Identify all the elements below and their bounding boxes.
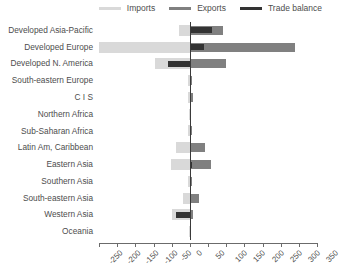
- bar-group: [99, 72, 317, 89]
- category-label: Latin Am, Caribbean: [18, 143, 93, 151]
- bar-exports: [190, 43, 295, 52]
- x-axis-tick-label: -100: [162, 249, 179, 266]
- category-label: South-eastern Europe: [12, 76, 93, 84]
- x-axis-tick: [299, 243, 300, 247]
- bar-exports: [190, 59, 226, 68]
- x-axis-tick: [244, 243, 245, 247]
- bar-imports: [176, 142, 190, 153]
- x-axis-tick-label: -50: [179, 249, 193, 263]
- bar-group: [99, 223, 317, 240]
- x-axis-tick: [208, 243, 209, 247]
- category-label: Eastern Asia: [46, 160, 93, 168]
- category-label: C I S: [75, 93, 93, 101]
- bar-trade-balance: [176, 212, 190, 218]
- x-axis-tick-label: 0: [195, 249, 204, 258]
- bar-trade-balance: [190, 27, 213, 33]
- x-axis-tick-label: -200: [126, 249, 143, 266]
- category-label: Western Asia: [44, 210, 93, 218]
- bar-imports: [179, 25, 190, 36]
- bar-group: [99, 22, 317, 39]
- x-axis-tick: [226, 243, 227, 247]
- x-axis-tick-label: 250: [289, 249, 304, 264]
- legend-trade-balance: Trade balance: [240, 4, 322, 13]
- x-axis-tick: [317, 243, 318, 247]
- legend-imports: Imports: [99, 4, 155, 13]
- category-label: Oceania: [62, 227, 93, 235]
- zero-baseline: [190, 22, 191, 240]
- x-axis-tick-label: 150: [252, 249, 267, 264]
- bar-group: [99, 190, 317, 207]
- chart-legend: ImportsExportsTrade balance: [0, 0, 326, 16]
- x-axis-tick-label: 100: [234, 249, 249, 264]
- x-axis-tick-label: 350: [325, 249, 340, 264]
- legend-exports-label: Exports: [197, 4, 226, 13]
- category-label: Sub-Saharan Africa: [21, 127, 93, 135]
- category-label: Developed Asia-Pacific: [8, 26, 93, 34]
- bar-exports: [190, 143, 205, 152]
- legend-trade-balance-swatch-icon: [240, 7, 262, 10]
- category-label: Northern Africa: [38, 110, 93, 118]
- bar-group: [99, 56, 317, 73]
- legend-exports: Exports: [169, 4, 226, 13]
- category-label: Southern Asia: [41, 177, 93, 185]
- x-axis-tick: [263, 243, 264, 247]
- category-label: South-eastern Asia: [23, 194, 93, 202]
- bar-group: [99, 206, 317, 223]
- bar-group: [99, 123, 317, 140]
- bar-exports: [190, 160, 211, 169]
- bar-group: [99, 139, 317, 156]
- bar-imports: [99, 42, 190, 53]
- category-label: Developed Europe: [24, 43, 93, 51]
- x-axis-tick: [190, 243, 191, 247]
- bar-trade-balance: [168, 61, 190, 67]
- bar-group: [99, 39, 317, 56]
- bar-imports: [171, 159, 190, 170]
- legend-imports-label: Imports: [127, 4, 155, 13]
- x-axis-tick-label: 300: [307, 249, 322, 264]
- category-label: Developed N. America: [10, 59, 93, 67]
- plot-area: [99, 22, 317, 240]
- x-axis-tick: [172, 243, 173, 247]
- legend-trade-balance-label: Trade balance: [268, 4, 322, 13]
- x-axis-tick: [99, 243, 100, 247]
- bar-group: [99, 173, 317, 190]
- x-axis-tick-label: -150: [144, 249, 161, 266]
- bar-imports: [183, 193, 190, 204]
- x-axis-tick: [117, 243, 118, 247]
- bar-group: [99, 106, 317, 123]
- bar-group: [99, 156, 317, 173]
- bar-trade-balance: [190, 44, 204, 50]
- bar-group: [99, 89, 317, 106]
- x-axis-tick-label: 200: [270, 249, 285, 264]
- x-axis-tick-label: 50: [215, 249, 227, 261]
- x-axis-tick-label: -250: [108, 249, 125, 266]
- x-axis-tick: [135, 243, 136, 247]
- x-axis-tick: [154, 243, 155, 247]
- legend-imports-swatch-icon: [99, 7, 121, 10]
- x-axis-tick: [281, 243, 282, 247]
- category-axis-labels: Developed Asia-PacificDeveloped EuropeDe…: [0, 22, 96, 240]
- legend-exports-swatch-icon: [169, 7, 191, 10]
